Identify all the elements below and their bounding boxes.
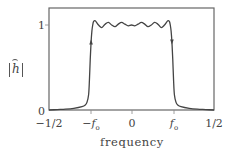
arrow-down-icon [170,40,174,45]
xtick-label-neg-fo: −fo [82,117,100,132]
xtick-sub: o [96,124,100,132]
ytick-label-1: 1 [38,19,45,32]
direction-arrows [89,40,173,45]
xtick-label-half: 1/2 [205,117,223,130]
xtick-sub: o [174,124,178,132]
ytick-label-0: 0 [38,105,45,118]
chart [0,0,237,156]
y-axis-label: h [9,62,23,77]
x-axis-label: frequency [100,135,164,149]
arrow-up-icon [89,40,93,45]
xtick-label-zero: 0 [129,117,136,130]
h-hat-symbol: h [10,62,22,76]
plot-frame [49,8,214,110]
xtick-label-fo: fo [170,117,178,132]
magnitude-response-curve [49,21,214,110]
xtick-label-neg-half: −1/2 [36,117,63,130]
abs-bar-right [22,63,23,77]
xtick-text: −f [82,117,95,130]
